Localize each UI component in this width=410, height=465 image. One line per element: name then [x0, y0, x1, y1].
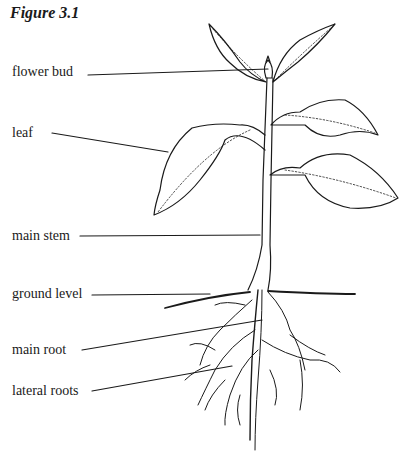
bud-tip: [266, 56, 270, 62]
stem-right: [268, 78, 273, 290]
leaf-right-lower: [270, 154, 398, 208]
main-root: [250, 290, 258, 440]
leaf-left: [154, 124, 265, 215]
leader-ground-level: [92, 294, 210, 295]
stem-left: [248, 78, 267, 290]
leader-main-stem: [80, 235, 260, 236]
leaf-top-right: [273, 24, 335, 82]
ground-line-right: [268, 291, 355, 294]
leader-leaf: [52, 133, 168, 152]
plant-illustration: [0, 0, 410, 465]
leaf-top-left: [209, 24, 266, 82]
leaf-right-upper: [271, 100, 378, 137]
